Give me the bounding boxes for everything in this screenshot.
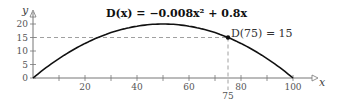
- x-axis-arrow-icon: [312, 75, 318, 81]
- point-label: D(75) = 15: [231, 27, 293, 40]
- y-tick-label: 5: [22, 60, 28, 70]
- data-point-marker: [226, 35, 230, 39]
- chart: 20406080100 05101520 D(x) = −0.008x² + 0…: [0, 0, 340, 106]
- y-tick-label: 0: [22, 73, 28, 83]
- x-tick-label: 100: [284, 82, 301, 92]
- y-tick-label: 15: [17, 33, 29, 43]
- x-tick-label: 20: [79, 82, 91, 92]
- x-axis-label: x: [319, 76, 326, 89]
- x-tick-label: 60: [183, 82, 195, 92]
- x-tick-label: 40: [131, 82, 143, 92]
- x75-label: 75: [222, 91, 234, 101]
- y-axis-label: y: [21, 4, 29, 17]
- y-tick-label: 20: [17, 19, 29, 29]
- y-tick-label: 10: [17, 46, 29, 56]
- chart-title: D(x) = −0.008x² + 0.8x: [106, 7, 247, 20]
- x-tick-label: 80: [235, 82, 247, 92]
